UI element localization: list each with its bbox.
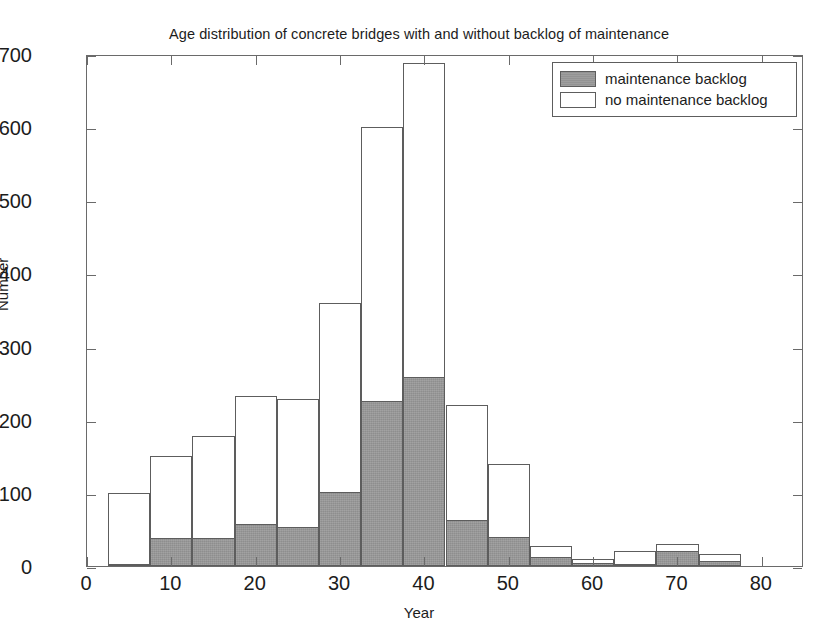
- y-axis-tick-label: 400: [0, 263, 32, 286]
- page-title: Age distribution of concrete bridges wit…: [0, 26, 838, 42]
- x-axis-tick: [171, 56, 172, 65]
- y-axis-tick: [793, 495, 802, 496]
- y-axis-tick: [87, 349, 96, 350]
- x-axis-tick: [593, 557, 594, 566]
- y-axis-tick: [87, 202, 96, 203]
- bar-column: [403, 63, 445, 566]
- x-axis-tick-label: 60: [581, 572, 603, 595]
- x-axis-tick: [509, 557, 510, 566]
- bar-segment-maintenance-backlog: [192, 538, 234, 566]
- bar-column: [530, 546, 572, 566]
- y-axis-tick-label: 0: [21, 556, 32, 579]
- bar-column: [108, 493, 150, 566]
- y-axis-tick-label: 300: [0, 336, 32, 359]
- y-axis-tick: [793, 129, 802, 130]
- x-axis-tick-label: 50: [497, 572, 519, 595]
- x-axis-tick-label: 70: [665, 572, 687, 595]
- bar-segment-maintenance-backlog: [530, 557, 572, 566]
- y-axis-tick-label: 600: [0, 117, 32, 140]
- bar-segment-maintenance-backlog: [614, 564, 656, 566]
- x-axis-tick-label: 40: [412, 572, 434, 595]
- x-axis-tick: [340, 557, 341, 566]
- y-axis-tick-label: 100: [0, 482, 32, 505]
- x-axis-tick: [87, 56, 88, 65]
- x-axis-tick: [762, 557, 763, 566]
- bar-column: [150, 456, 192, 566]
- x-axis-label: Year: [0, 604, 838, 621]
- x-axis-tick-label: 10: [159, 572, 181, 595]
- bar-column: [319, 303, 361, 566]
- y-axis-tick: [793, 202, 802, 203]
- bar-column: [699, 554, 741, 566]
- legend-item-label: no maintenance backlog: [605, 91, 768, 108]
- x-axis-tick: [424, 557, 425, 566]
- figure-container: Age distribution of concrete bridges wit…: [0, 0, 838, 642]
- y-axis-tick: [793, 275, 802, 276]
- bar-segment-maintenance-backlog: [319, 492, 361, 566]
- y-axis-tick: [793, 349, 802, 350]
- x-axis-tick-label: 20: [244, 572, 266, 595]
- bar-column: [192, 436, 234, 566]
- bar-segment-maintenance-backlog: [108, 564, 150, 566]
- x-axis-tick: [171, 557, 172, 566]
- bar-column: [488, 464, 530, 566]
- filled-square-icon: [560, 71, 596, 87]
- legend-item: maintenance backlog: [560, 68, 790, 89]
- y-axis-tick: [793, 56, 802, 57]
- x-axis-tick: [256, 557, 257, 566]
- y-axis-tick-label: 500: [0, 190, 32, 213]
- plot-area: [87, 56, 802, 566]
- bar-segment-maintenance-backlog: [403, 377, 445, 566]
- y-axis-tick: [87, 129, 96, 130]
- y-axis-tick: [87, 275, 96, 276]
- chart-legend: maintenance backlog no maintenance backl…: [552, 62, 797, 117]
- x-axis-tick: [87, 557, 88, 566]
- bar-column: [614, 551, 656, 566]
- y-axis-tick: [87, 495, 96, 496]
- bar-segment-no-maintenance-backlog: [108, 493, 150, 566]
- bar-column: [277, 399, 319, 566]
- x-axis-tick: [256, 56, 257, 65]
- y-axis-tick: [87, 422, 96, 423]
- bar-segment-maintenance-backlog: [699, 561, 741, 566]
- legend-item: no maintenance backlog: [560, 89, 790, 110]
- cropped-caption: [0, 628, 838, 642]
- y-axis-tick: [87, 56, 96, 57]
- x-axis-tick: [509, 56, 510, 65]
- y-axis-tick-label: 200: [0, 409, 32, 432]
- x-axis-tick: [424, 56, 425, 65]
- bar-column: [361, 127, 403, 566]
- bar-column: [446, 405, 488, 566]
- x-axis-tick-label: 0: [80, 572, 91, 595]
- y-axis-tick-label: 700: [0, 44, 32, 67]
- x-axis-tick-label: 80: [750, 572, 772, 595]
- x-axis-tick: [677, 557, 678, 566]
- plot-frame: [86, 55, 803, 567]
- bar-segment-maintenance-backlog: [277, 527, 319, 566]
- y-axis-tick: [793, 568, 802, 569]
- hollow-square-icon: [560, 92, 596, 108]
- y-axis-tick: [87, 568, 96, 569]
- bar-segment-maintenance-backlog: [361, 401, 403, 566]
- legend-item-label: maintenance backlog: [605, 70, 747, 87]
- y-axis-tick: [793, 422, 802, 423]
- x-axis-tick: [340, 56, 341, 65]
- bar-column: [235, 396, 277, 566]
- x-axis-tick-label: 30: [328, 572, 350, 595]
- bar-segment-maintenance-backlog: [446, 520, 488, 566]
